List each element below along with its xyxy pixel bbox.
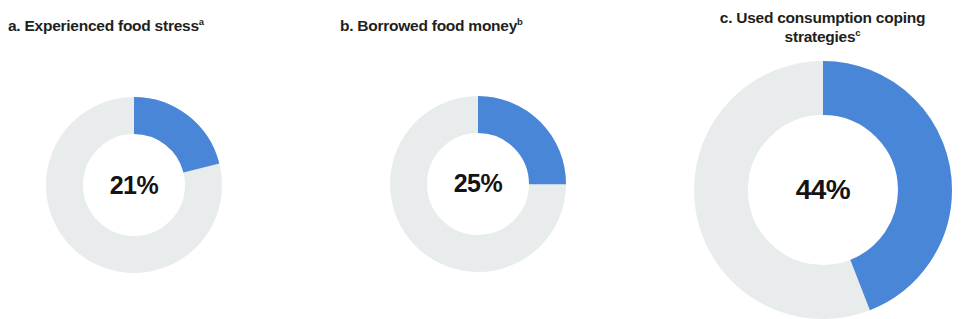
donut-a-svg bbox=[46, 97, 222, 273]
panel-c-title-line-2-wrap: strategiesc bbox=[662, 27, 961, 46]
panel-c-title: c. Used consumption coping strategiesc bbox=[662, 8, 961, 46]
donut-chart-a: 21% bbox=[46, 97, 222, 273]
chart-panel-b: b. Borrowed food moneyb 25% bbox=[330, 0, 650, 318]
panel-a-title-text: a. Experienced food stress bbox=[8, 17, 199, 34]
panel-c-title-line-1: c. Used consumption coping bbox=[662, 8, 961, 27]
donut-chart-b: 25% bbox=[390, 96, 566, 272]
donut-b-svg bbox=[390, 96, 566, 272]
donut-c-svg bbox=[694, 61, 952, 319]
panel-a-title: a. Experienced food stressa bbox=[8, 16, 204, 35]
panel-c-footnote-marker: c bbox=[855, 27, 860, 38]
panel-b-footnote-marker: b bbox=[517, 16, 523, 27]
chart-panel-a: a. Experienced food stressa 21% bbox=[0, 0, 320, 318]
panel-b-title: b. Borrowed food moneyb bbox=[340, 16, 523, 35]
panel-a-footnote-marker: a bbox=[199, 16, 204, 27]
panel-c-title-line-2: strategies bbox=[785, 28, 856, 45]
donut-chart-c: 44% bbox=[694, 61, 952, 319]
panel-b-title-text: b. Borrowed food money bbox=[340, 17, 517, 34]
chart-panel-c: c. Used consumption coping strategiesc 4… bbox=[662, 0, 961, 318]
